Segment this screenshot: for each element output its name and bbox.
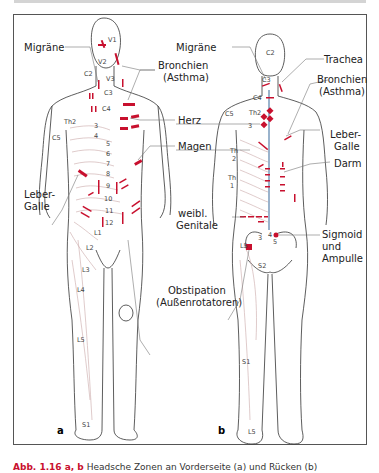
back-zone-marks — [240, 83, 296, 250]
seg-th2-back: Th2 — [248, 109, 261, 117]
seg-l2-front: L2 — [86, 244, 94, 252]
label-magen: Magen — [178, 141, 212, 152]
label-herz: Herz — [178, 115, 201, 126]
seg-th1-back: Th — [227, 174, 236, 182]
seg-t10: 10 — [104, 195, 112, 203]
seg-s3-back: 3 — [258, 234, 262, 242]
seg-th2-front: Th2 — [63, 118, 76, 126]
seg-s4-back: 4 — [268, 231, 272, 239]
seg-t12: 12 — [105, 219, 113, 227]
seg-t6: 6 — [106, 150, 110, 158]
seg-th2b-num: 2 — [232, 155, 236, 163]
seg-c5-front: C5 — [52, 134, 61, 142]
label-ampulle: Ampulle — [322, 253, 363, 264]
seg-l1-front: L1 — [94, 229, 102, 237]
label-leber-back: Leber- — [330, 129, 362, 140]
label-obstipation: Obstipation — [168, 285, 226, 296]
seg-t5: 5 — [106, 140, 110, 148]
seg-th2b-back: Th — [229, 147, 238, 155]
seg-t7: 7 — [106, 160, 110, 168]
label-leber-front: Leber- — [24, 189, 56, 200]
front-dermatome-lines — [70, 126, 122, 420]
label-migraene-back: Migräne — [176, 42, 216, 53]
seg-s1-back: S1 — [242, 358, 250, 366]
label-bronchien-front: Bronchien — [158, 60, 208, 71]
seg-v2: V2 — [98, 58, 107, 66]
seg-th1-num: 1 — [230, 182, 234, 190]
label-und: und — [322, 241, 341, 252]
seg-v3: V3 — [106, 75, 115, 83]
label-asthma-back: (Asthma) — [319, 86, 365, 97]
label-genitale: Genitale — [176, 220, 218, 231]
seg-c2-front: C2 — [84, 70, 93, 78]
seg-t4: 4 — [94, 132, 98, 140]
label-galle-back: Galle — [334, 141, 360, 152]
label-weibl: weibl. — [178, 208, 207, 219]
front-labels: Migräne Bronchien (Asthma) Herz Magen Le… — [24, 42, 242, 308]
seg-l4-front: L4 — [77, 286, 85, 294]
seg-s1-front: S1 — [82, 421, 90, 429]
seg-l5-back: L5 — [240, 242, 248, 250]
seg-v1: V1 — [108, 36, 117, 44]
seg-t3: 3 — [94, 122, 98, 130]
seg-t3-back: 3 — [248, 122, 252, 130]
head-zones-illustration: Migräne Bronchien (Asthma) Herz Magen Le… — [0, 0, 379, 473]
seg-c5-back: C5 — [225, 110, 234, 118]
front-body-outline — [39, 18, 171, 440]
seg-c3-front: C3 — [104, 89, 113, 97]
label-darm: Darm — [334, 158, 362, 169]
seg-t8: 8 — [106, 170, 110, 178]
seg-c2-back: C2 — [266, 49, 275, 57]
seg-s2-back: S2 — [258, 262, 266, 270]
seg-l5-front: L5 — [77, 336, 85, 344]
figure-caption: Abb. 1.16 a, b Headsche Zonen an Vorders… — [13, 462, 317, 472]
label-asthma-front: (Asthma) — [163, 72, 209, 83]
caption-text: Headsche Zonen an Vorderseite (a) und Rü… — [84, 462, 317, 472]
seg-c3-back: C3 — [262, 76, 271, 84]
seg-c4-front: C4 — [102, 105, 111, 113]
label-galle-front: Galle — [24, 201, 50, 212]
seg-l5-foot: L5 — [248, 428, 256, 436]
front-segment-labels: V1 V2 V3 C2 C3 C4 C5 Th2 3 4 5 6 7 8 9 1… — [52, 36, 117, 429]
panel-label-b: b — [218, 425, 225, 436]
label-sigmoid: Sigmoid — [322, 229, 362, 240]
seg-l3-front: L3 — [82, 266, 90, 274]
label-trachea: Trachea — [323, 54, 363, 65]
seg-t9: 9 — [106, 182, 110, 190]
panel-label-a: a — [57, 425, 64, 436]
caption-prefix: Abb. 1.16 a, b — [13, 462, 84, 472]
label-aussenrotatoren: (Außenrotatoren) — [156, 297, 242, 308]
seg-s5-back: 5 — [273, 238, 277, 246]
label-bronchien-back: Bronchien — [317, 74, 367, 85]
label-migraene-front: Migräne — [24, 42, 64, 53]
seg-t11: 11 — [105, 207, 113, 215]
seg-c4-back: C4 — [253, 94, 262, 102]
